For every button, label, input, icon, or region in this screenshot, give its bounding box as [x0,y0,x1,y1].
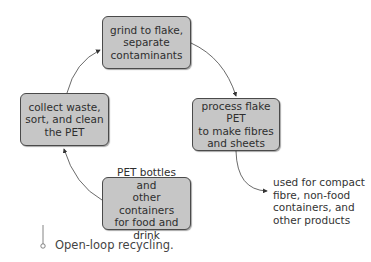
node-process-label: process flake PET to make fibres and she… [196,100,276,150]
node-collect: collect waste, sort, and clean the PET [20,93,109,146]
arrow-collect-to-grind [67,50,100,93]
node-bottles: PET bottles and other containers for foo… [102,177,191,230]
node-grind-label: grind to flake, separate contaminants [110,24,183,62]
node-bottles-label: PET bottles and other containers for foo… [106,166,187,241]
arrow-bottles-to-collect [64,149,102,200]
node-process: process flake PET to make fibres and she… [192,98,280,151]
node-grind: grind to flake, separate contaminants [102,16,191,69]
arrow-grind-to-process [191,43,236,96]
caption-marker-dot [41,244,45,248]
node-collect-label: collect waste, sort, and clean the PET [25,101,103,139]
outcome-text: used for compact fibre, non-food contain… [273,176,365,226]
arrow-process-to-outcome [236,151,267,191]
figure-caption: Open-loop recycling. [55,238,174,252]
